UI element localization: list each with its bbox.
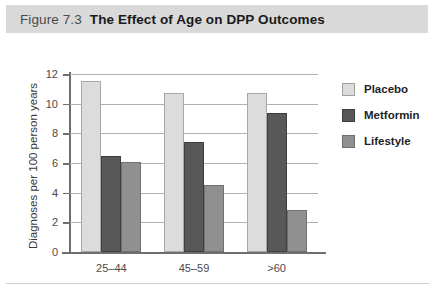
y-axis-tick-label: 0	[36, 246, 58, 258]
legend-label-placebo: Placebo	[364, 83, 408, 95]
y-axis-tick-label: 4	[36, 187, 58, 199]
figure-container: Figure 7.3 The Effect of Age on DPP Outc…	[0, 0, 436, 292]
x-axis-tick-label: >60	[267, 262, 286, 274]
bar-placebo-1	[164, 93, 184, 252]
legend-item-placebo[interactable]: Placebo	[342, 76, 436, 102]
y-axis-tick	[63, 252, 69, 254]
y-axis-tick-label: 2	[36, 216, 58, 228]
bar-metformin-0	[101, 156, 121, 252]
y-axis-tick-label: 10	[36, 98, 58, 110]
bar-lifestyle-0	[121, 162, 141, 252]
legend-label-metformin: Metformin	[364, 109, 420, 121]
y-axis-tick	[63, 163, 69, 165]
y-axis-tick	[63, 133, 69, 135]
y-axis-tick-labels: 024681012	[34, 0, 58, 292]
y-axis-tick-label: 8	[36, 127, 58, 139]
figure-title-band: Figure 7.3 The Effect of Age on DPP Outc…	[6, 5, 428, 33]
y-axis-tick	[63, 104, 69, 106]
figure-title: The Effect of Age on DPP Outcomes	[90, 12, 325, 27]
y-axis-tick	[63, 222, 69, 224]
bar-placebo-2	[247, 93, 267, 252]
bar-metformin-1	[184, 142, 204, 252]
gridline	[70, 74, 318, 75]
x-axis-tick-label: 25–44	[96, 262, 127, 274]
y-axis-tick-label: 6	[36, 157, 58, 169]
y-axis-tick	[63, 74, 69, 76]
bar-lifestyle-1	[204, 185, 224, 252]
y-axis-tick-label: 12	[36, 68, 58, 80]
bottom-divider	[6, 283, 430, 284]
legend-swatch-placebo	[342, 83, 355, 96]
plot-area	[70, 74, 318, 252]
gridline	[70, 104, 318, 105]
legend-item-lifestyle[interactable]: Lifestyle	[342, 128, 436, 154]
bar-metformin-2	[267, 113, 287, 252]
legend-swatch-metformin	[342, 109, 355, 122]
legend-item-metformin[interactable]: Metformin	[342, 102, 436, 128]
legend-swatch-lifestyle	[342, 135, 355, 148]
bar-lifestyle-2	[287, 210, 307, 252]
legend-label-lifestyle: Lifestyle	[364, 135, 411, 147]
x-axis-line	[62, 252, 326, 254]
y-axis-tick	[63, 193, 69, 195]
chart-legend: PlaceboMetforminLifestyle	[342, 76, 436, 154]
x-axis-tick-label: 45–59	[179, 262, 210, 274]
bar-placebo-0	[81, 81, 101, 252]
